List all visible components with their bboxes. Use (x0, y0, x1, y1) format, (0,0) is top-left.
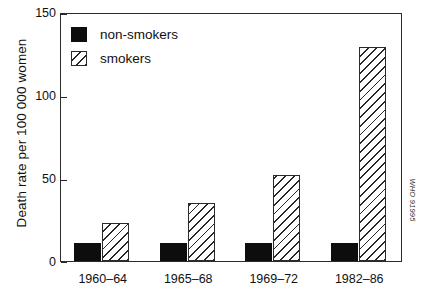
y-axis-tick-labels: 150 100 50 0 (16, 0, 56, 305)
bar-smoker-1960-64 (102, 223, 129, 261)
who-source-credit: WHO 91995 (405, 150, 417, 250)
bar-nonsmoker-1960-64 (74, 243, 101, 261)
x-tick-label-1965-68: 1965–68 (146, 272, 232, 286)
bar-nonsmoker-1982-86 (331, 243, 358, 261)
y-tick-label-100: 100 (16, 90, 56, 102)
bar-nonsmoker-1969-72 (245, 243, 272, 261)
y-tick-label-150: 150 (16, 7, 56, 19)
bar-chart-figure: Death rate per 100 000 women 150 100 50 … (0, 0, 428, 305)
bar-smoker-1982-86 (359, 47, 386, 261)
x-tick-label-1960-64: 1960–64 (60, 272, 146, 286)
bars-layer (61, 14, 401, 261)
bar-smoker-1965-68 (188, 203, 215, 261)
bar-nonsmoker-1965-68 (160, 243, 187, 261)
x-axis-tick-labels: 1960–641965–681969–721982–86 (60, 272, 402, 292)
plot-area: non-smokers smokers (60, 13, 402, 262)
x-tick-label-1982-86: 1982–86 (317, 272, 403, 286)
y-tick-label-50: 50 (16, 173, 56, 185)
y-tick-mark-0 (61, 262, 67, 263)
x-tick-label-1969-72: 1969–72 (231, 272, 317, 286)
bar-smoker-1969-72 (273, 175, 300, 261)
y-tick-label-0: 0 (16, 256, 56, 268)
